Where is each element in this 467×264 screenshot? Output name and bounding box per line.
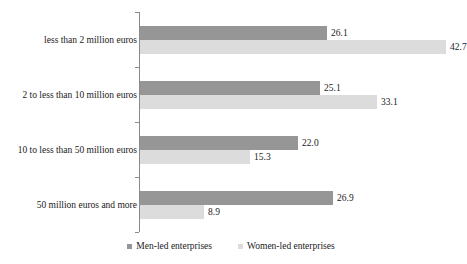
bar-value-label: 22.0	[302, 137, 319, 149]
legend-swatch-icon	[238, 244, 243, 249]
bar-group: 10 to less than 50 million euros22.015.3	[0, 122, 462, 177]
bar-men-led: 26.9	[140, 191, 333, 205]
bar-men-led: 25.1	[140, 81, 320, 95]
category-label: less than 2 million euros	[44, 34, 137, 46]
legend-label: Women-led enterprises	[247, 240, 335, 252]
bar-women-led: 15.3	[140, 150, 250, 164]
plot-area: less than 2 million euros26.142.72 to le…	[0, 0, 462, 236]
bar-value-label: 15.3	[254, 151, 271, 163]
legend-item-women-led[interactable]: Women-led enterprises	[238, 240, 335, 252]
bar-group: 50 million euros and more26.98.9	[0, 177, 462, 232]
bar-women-led: 8.9	[140, 205, 204, 219]
bar-value-label: 33.1	[381, 96, 398, 108]
category-label: 2 to less than 10 million euros	[22, 89, 137, 101]
bar-group: less than 2 million euros26.142.7	[0, 12, 462, 67]
bar-value-label: 26.1	[331, 27, 348, 39]
bar-women-led: 42.7	[140, 40, 446, 54]
bar-value-label: 42.7	[450, 41, 467, 53]
bar-men-led: 26.1	[140, 26, 327, 40]
category-label: 50 million euros and more	[37, 199, 137, 211]
category-label: 10 to less than 50 million euros	[18, 144, 137, 156]
bar-value-label: 25.1	[324, 82, 341, 94]
bar-value-label: 26.9	[337, 192, 354, 204]
bar-women-led: 33.1	[140, 95, 377, 109]
legend-swatch-icon	[127, 244, 132, 249]
bar-group: 2 to less than 10 million euros25.133.1	[0, 67, 462, 122]
legend-label: Men-led enterprises	[136, 240, 212, 252]
bar-value-label: 8.9	[208, 206, 220, 218]
legend-item-men-led[interactable]: Men-led enterprises	[127, 240, 212, 252]
chart-legend: Men-led enterprisesWomen-led enterprises	[0, 240, 462, 252]
axis-tick	[135, 232, 139, 233]
bar-men-led: 22.0	[140, 136, 298, 150]
